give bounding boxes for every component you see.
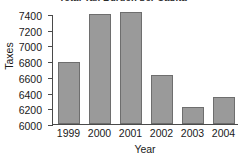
y-axis-tick-label: 6400 xyxy=(19,89,42,101)
bar-chart-figure: Total Tax Burden per Capita Taxes 600062… xyxy=(0,0,246,161)
chart-title: Total Tax Burden per Capita xyxy=(0,0,246,1)
y-axis-tick: 6400 xyxy=(48,94,53,95)
x-axis-tick-label: 2002 xyxy=(150,127,173,139)
x-axis-tick-label: 1999 xyxy=(57,127,80,139)
bar xyxy=(58,62,80,124)
y-axis-tick-label: 6000 xyxy=(19,120,42,132)
x-axis-tick-label: 2003 xyxy=(181,127,204,139)
y-axis-tick-label: 7000 xyxy=(19,41,42,53)
y-axis-tick: 6800 xyxy=(48,62,53,63)
y-axis-title: Taxes xyxy=(3,28,15,84)
y-axis-tick: 6000 xyxy=(48,125,53,126)
bar xyxy=(89,14,111,124)
bar xyxy=(120,12,142,124)
y-axis-tick-label: 6200 xyxy=(19,104,42,116)
y-axis-tick: 7400 xyxy=(48,15,53,16)
plot-area: 60006200640066006800700072007400 1999200… xyxy=(52,15,238,125)
x-axis-title: Year xyxy=(52,143,238,155)
y-axis-tick-label: 6800 xyxy=(19,57,42,69)
y-axis-tick-label: 7400 xyxy=(19,10,42,22)
y-axis-tick-label: 6600 xyxy=(19,73,42,85)
x-axis-tick-label: 2001 xyxy=(119,127,142,139)
x-axis-tick-label: 2000 xyxy=(88,127,111,139)
y-axis-tick: 7200 xyxy=(48,31,53,32)
y-axis-tick-label: 7200 xyxy=(19,26,42,38)
bar xyxy=(182,107,204,124)
y-axis-tick: 6600 xyxy=(48,78,53,79)
x-axis-tick-label: 2004 xyxy=(212,127,235,139)
y-axis-tick: 6200 xyxy=(48,109,53,110)
bar xyxy=(151,75,173,124)
bar xyxy=(213,97,235,125)
y-axis-tick: 7000 xyxy=(48,46,53,47)
